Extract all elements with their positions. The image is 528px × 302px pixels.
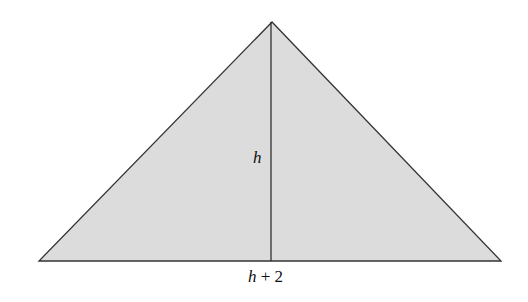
base-label: h + 2 bbox=[248, 267, 283, 287]
triangle-svg bbox=[0, 0, 528, 302]
height-label: h bbox=[253, 148, 262, 168]
base-expression-rest: + 2 bbox=[257, 267, 284, 286]
base-variable: h bbox=[248, 267, 257, 286]
triangle-shape bbox=[39, 22, 501, 261]
height-variable: h bbox=[253, 148, 262, 167]
triangle-diagram: h h + 2 bbox=[0, 0, 528, 302]
